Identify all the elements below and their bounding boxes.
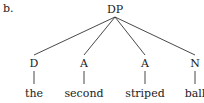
leaf-word-second: second [64, 88, 103, 99]
node-category-a-2: A [141, 58, 149, 69]
leaf-word-striped: striped [125, 88, 164, 99]
root-node-dp: DP [107, 4, 123, 15]
node-category-d: D [30, 58, 39, 69]
node-category-a-1: A [80, 58, 88, 69]
leaf-word-ball: ball [185, 88, 204, 99]
edge-dp-a2 [115, 17, 145, 55]
edge-dp-n [115, 17, 195, 55]
edge-dp-a1 [84, 17, 115, 55]
leaf-word-the: the [25, 88, 43, 99]
edge-dp-d [34, 17, 115, 55]
node-category-n: N [190, 58, 200, 69]
